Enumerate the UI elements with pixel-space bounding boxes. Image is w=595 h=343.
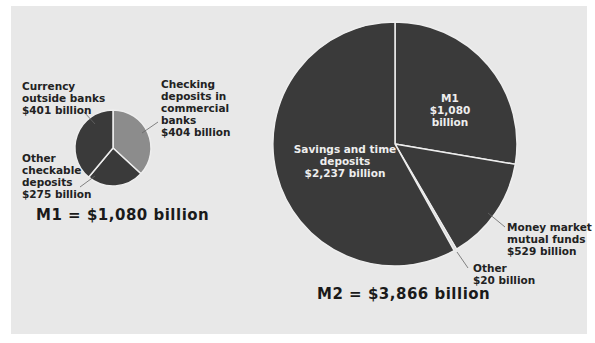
m1-label-checking: Checking deposits in commercial banks $4…: [161, 78, 230, 138]
m2-label-mmmf: Money market mutual funds $529 billion: [507, 221, 592, 257]
m1-label-other-checkable: Other checkable deposits $275 billion: [22, 152, 91, 200]
m2-label-savings: Savings and time deposits $2,237 billion: [290, 143, 400, 179]
m2-total: M2 = $3,866 billion: [317, 285, 490, 303]
m2-label-other: Other $20 billion: [473, 262, 535, 286]
m2-label-m1: M1 $1,080 billion: [410, 92, 490, 128]
m1-total: M1 = $1,080 billion: [36, 206, 209, 224]
m1-label-currency: Currency outside banks $401 billion: [22, 80, 105, 116]
